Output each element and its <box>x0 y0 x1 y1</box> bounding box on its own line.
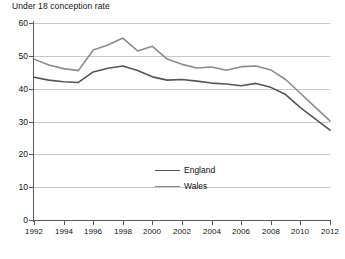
x-axis-tick-label: 2006 <box>232 227 250 236</box>
x-axis-tick <box>212 221 213 225</box>
legend-item-england: England <box>155 162 215 178</box>
x-axis-tick <box>182 221 183 225</box>
legend-swatch-wales <box>155 186 180 187</box>
x-axis-tick <box>330 221 331 225</box>
gridline <box>34 154 330 155</box>
y-axis-line <box>33 21 34 222</box>
chart-container: Under 18 conception rate 0102030405060 1… <box>0 0 345 259</box>
y-axis-tick-label: 50 <box>2 51 28 61</box>
x-axis-tick-label: 2012 <box>321 227 339 236</box>
legend-item-wales: Wales <box>155 178 215 194</box>
x-axis-tick-label: 2004 <box>203 227 221 236</box>
gridline <box>34 89 330 90</box>
y-axis-tick-label: 40 <box>2 84 28 94</box>
gridline <box>34 122 330 123</box>
series-line-wales <box>34 38 330 121</box>
series-line-england <box>34 66 330 130</box>
x-axis-tick <box>64 221 65 225</box>
x-axis-tick-label: 2002 <box>173 227 191 236</box>
gridline <box>34 23 330 24</box>
x-axis-tick <box>152 221 153 225</box>
x-axis-tick-label: 1992 <box>25 227 43 236</box>
legend-swatch-england <box>155 170 180 171</box>
x-axis-tick <box>300 221 301 225</box>
legend-label-wales: Wales <box>184 181 207 191</box>
gridline <box>34 56 330 57</box>
chart-legend: England Wales <box>155 162 215 194</box>
x-axis-tick-label: 1998 <box>114 227 132 236</box>
y-axis-tick-label: 10 <box>2 182 28 192</box>
x-axis-tick-label: 2010 <box>291 227 309 236</box>
x-axis-tick-label: 2000 <box>143 227 161 236</box>
y-axis-tick-label: 60 <box>2 18 28 28</box>
x-axis-tick <box>93 221 94 225</box>
y-axis-tick-label: 20 <box>2 149 28 159</box>
y-axis-tick-label: 30 <box>2 117 28 127</box>
x-axis-tick <box>271 221 272 225</box>
x-axis-tick <box>123 221 124 225</box>
x-axis-tick <box>241 221 242 225</box>
x-axis-tick-label: 2008 <box>262 227 280 236</box>
x-axis-tick-label: 1994 <box>55 227 73 236</box>
x-axis-tick-label: 1996 <box>84 227 102 236</box>
y-axis-labels: 0102030405060 <box>0 0 28 259</box>
legend-label-england: England <box>184 165 215 175</box>
x-axis-tick <box>34 221 35 225</box>
y-axis-tick-label: 0 <box>2 215 28 225</box>
